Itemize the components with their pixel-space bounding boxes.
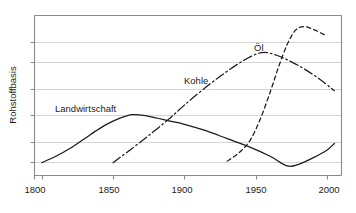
series-label-oel: Öl [254, 42, 264, 53]
series-label-kohle: Kohle [184, 75, 208, 86]
x-tick-label-1800: 1800 [24, 184, 45, 195]
series-group [42, 27, 335, 167]
series-label-landwirtschaft: Landwirtschaft [55, 103, 117, 114]
x-tick-label-1850: 1850 [98, 184, 119, 195]
series-annotations: Landwirtschaft Kohle Öl [55, 42, 264, 114]
series-line-kohle [113, 52, 334, 162]
rohstoffbasis-line-chart: 1800 1850 1900 1950 2000 Rohstoffbasis L… [0, 0, 356, 213]
x-tick-label-1900: 1900 [171, 184, 192, 195]
x-axis-ticks [43, 176, 328, 180]
x-tick-label-1950: 1950 [245, 184, 266, 195]
series-line-landwirtschaft [42, 114, 335, 166]
x-tick-label-2000: 2000 [318, 184, 339, 195]
series-line-oel [227, 27, 324, 161]
chart-container: 1800 1850 1900 1950 2000 Rohstoffbasis L… [0, 0, 356, 213]
x-tick-labels: 1800 1850 1900 1950 2000 [24, 184, 339, 195]
y-axis-title: Rohstoffbasis [7, 66, 18, 124]
plot-frame [35, 16, 342, 180]
y-axis-ticks [31, 43, 35, 163]
